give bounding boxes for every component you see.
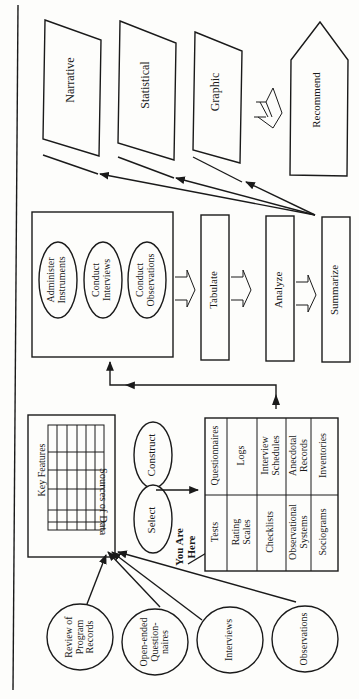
label-open-ended-questionnaires: Open-endedQuestion-naires [139, 609, 171, 675]
page-rule [13, 5, 18, 690]
cell-inventories: Inventories [318, 418, 329, 493]
hollow-arrow-2-icon [231, 270, 251, 307]
arrow-to-statistical [176, 178, 315, 215]
arrow-to-graphic [246, 182, 315, 215]
label-administer-instruments: AdministerInstruments [46, 240, 67, 320]
feedback-arrowhead [126, 385, 276, 390]
label-narrative: Narrative [64, 30, 77, 130]
label-summarize: Summarize [329, 240, 341, 340]
cell-interview-schedules: InterviewSchedules [260, 418, 281, 493]
label-graphic: Graphic [209, 42, 222, 142]
label-sources-of-data: Sources of Data [98, 468, 109, 535]
label-statistical: Statistical [139, 30, 152, 140]
label-analyze: Analyze [273, 240, 285, 340]
flow-diagram-canvas [0, 0, 359, 699]
arrow-review [87, 555, 106, 604]
hollow-arrow-1-icon [175, 270, 195, 307]
narrative-tail [43, 155, 98, 174]
label-conduct-observations: ConductObservations [135, 240, 156, 320]
label-tabulate: Tabulate [208, 240, 220, 340]
label-review-program-records: Review ofProgramRecords [64, 604, 96, 670]
cell-anecdotal-records: AnecdotalRecords [288, 418, 309, 493]
cell-sociograms: Sociograms [318, 495, 329, 569]
label-you-are-here: You AreHere [174, 522, 197, 572]
cell-logs: Logs [236, 418, 247, 493]
hollow-arrow-to-recommend-icon [254, 88, 282, 128]
cell-observational-systems: ObservationalSystems [288, 495, 309, 569]
cell-questionnaires: Questionnaires [210, 418, 221, 493]
cell-checklists: Checklists [265, 495, 276, 569]
hollow-arrow-3-icon [296, 275, 316, 312]
label-interviews: Interviews [224, 607, 235, 673]
arrow-open-ended [108, 552, 160, 607]
label-key-features: Key Features [37, 420, 48, 520]
label-observations: Observations [299, 606, 310, 672]
cell-tests: Tests [210, 495, 221, 569]
label-select: Select [146, 490, 158, 550]
arrowhead-up-table [272, 394, 280, 405]
label-conduct-interviews: ConductInterviews [91, 240, 112, 320]
statistical-tail [118, 157, 174, 178]
label-recommend: Recommend [311, 40, 323, 160]
cell-rating-scales: RatingScales [231, 495, 252, 569]
arrow-to-narrative [100, 174, 315, 215]
label-construct: Construct [146, 425, 158, 485]
